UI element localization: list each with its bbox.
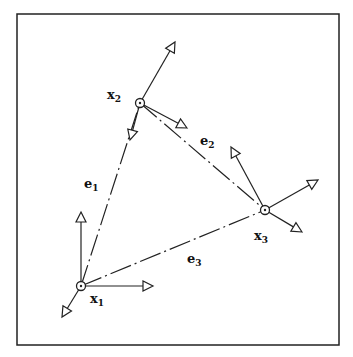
arrowhead-icon [62, 306, 71, 317]
edge-label-e1: e1 [84, 176, 99, 193]
axis-x3-0 [236, 156, 265, 210]
edge-label-e3: e3 [187, 251, 202, 268]
arrowhead-icon [143, 281, 153, 291]
node-label-x2: x2 [107, 87, 121, 104]
node-center-x3 [264, 209, 266, 211]
edge-e3 [81, 210, 265, 286]
pose-graph-diagram: e1e2e3x1x2x3 [0, 0, 353, 357]
arrowhead-icon [291, 223, 302, 232]
arrowhead-icon [307, 180, 318, 189]
node-label-x3: x3 [254, 228, 268, 245]
axis-x3-1 [265, 185, 309, 210]
arrowhead-icon [231, 147, 240, 158]
node-center-x1 [80, 285, 82, 287]
arrowhead-icon [76, 212, 86, 222]
arrowhead-icon [166, 42, 175, 53]
arrowhead-icon [176, 119, 187, 128]
node-label-x1: x1 [90, 291, 104, 308]
edge-e2 [140, 103, 265, 210]
arrowhead-icon [128, 129, 138, 140]
edge-label-e2: e2 [200, 133, 215, 150]
axis-x2-1 [140, 103, 178, 123]
diagram-frame [17, 14, 339, 345]
node-center-x2 [139, 102, 141, 104]
axis-x2-0 [140, 51, 170, 103]
